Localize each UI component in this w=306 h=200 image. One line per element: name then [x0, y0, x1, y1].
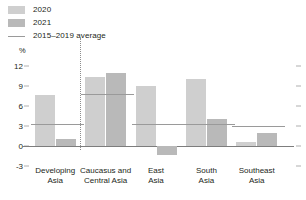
- y-axis-tick-mark: [24, 106, 29, 107]
- y-axis-tick-mark-right: [296, 166, 301, 167]
- y-axis-tick-mark: [24, 126, 29, 127]
- bar-2021-4: [257, 133, 277, 146]
- chart-legend: 202020212015–2019 average: [8, 4, 106, 43]
- bar-2021-1: [106, 73, 126, 146]
- bar-2020-4: [236, 142, 256, 146]
- average-line-2: [132, 124, 185, 125]
- plot-area: -3036912DevelopingAsiaCaucasus andCentra…: [30, 56, 282, 166]
- bar-2020-3: [186, 79, 206, 146]
- legend-2020-swatch: [8, 6, 25, 14]
- y-axis-tick-mark-right: [296, 86, 301, 87]
- legend-line-glyph: [8, 36, 25, 37]
- bar-2021-0: [56, 139, 76, 146]
- average-line-4: [232, 126, 285, 127]
- y-axis-tick-mark-right: [296, 126, 301, 127]
- bar-2020-2: [136, 86, 156, 146]
- legend-2020-label: 2020: [33, 6, 51, 14]
- y-axis-tick-mark: [24, 86, 29, 87]
- y-axis-tick-mark-right: [296, 66, 301, 67]
- average-line-1: [81, 94, 134, 95]
- y-axis-tick-mark-right: [296, 146, 301, 147]
- legend-average: 2015–2019 average: [8, 30, 106, 41]
- chart-container: 202020212015–2019 average % -3036912Deve…: [0, 0, 306, 200]
- legend-average-label: 2015–2019 average: [33, 32, 106, 40]
- average-line-3: [182, 124, 235, 125]
- legend-2021-swatch: [8, 19, 25, 27]
- y-axis-unit-label: %: [19, 46, 26, 55]
- bar-2020-1: [85, 77, 105, 146]
- y-axis-tick-mark-right: [296, 106, 301, 107]
- x-axis-category-label: SoutheastAsia: [224, 166, 290, 185]
- legend-2021: 2021: [8, 17, 106, 28]
- group-divider: [80, 38, 81, 150]
- bar-2021-2: [157, 146, 177, 155]
- category-label-line2: Asia: [224, 176, 290, 186]
- average-line-0: [31, 124, 84, 125]
- legend-2020: 2020: [8, 4, 106, 15]
- y-axis-tick-mark: [24, 66, 29, 67]
- legend-2021-label: 2021: [33, 19, 51, 27]
- legend-average-line: [8, 32, 25, 40]
- bar-2020-0: [35, 95, 55, 146]
- category-label-line1: Southeast: [224, 166, 290, 176]
